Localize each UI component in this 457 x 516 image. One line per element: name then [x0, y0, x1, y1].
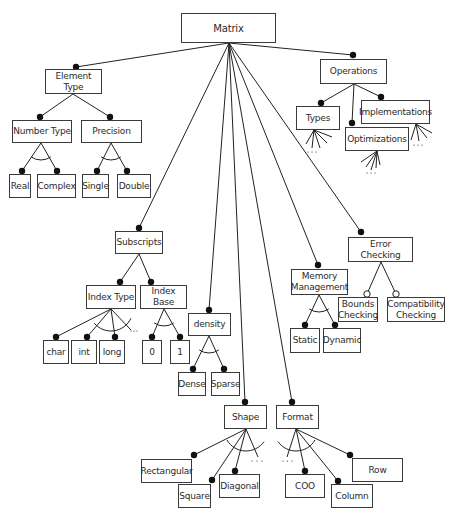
- connector-line: [229, 43, 353, 55]
- node-long: long: [99, 340, 125, 364]
- truncated-branch-line: [411, 124, 416, 140]
- node-implementations: Implementations: [361, 100, 430, 124]
- connector-line: [296, 429, 350, 455]
- node-zero: 0: [142, 340, 162, 364]
- node-shape: Shape: [224, 405, 267, 429]
- ellipsis-dot: [374, 172, 375, 173]
- connector-line: [152, 309, 164, 337]
- node-square: Square: [178, 484, 211, 508]
- node-element-type: Element Type: [45, 69, 102, 94]
- node-real: Real: [9, 174, 31, 198]
- node-char: char: [43, 340, 69, 364]
- ellipsis-dot: [282, 460, 283, 461]
- truncated-branch-line: [377, 151, 380, 165]
- connector-line: [164, 309, 180, 337]
- ellipsis-dot: [413, 144, 414, 145]
- node-density: density: [188, 313, 231, 336]
- connector-line: [120, 254, 139, 282]
- mandatory-dot-icon: [315, 262, 321, 268]
- connector-line: [56, 309, 111, 337]
- connector-line: [367, 262, 381, 294]
- mandatory-dot-icon: [358, 229, 364, 235]
- node-one: 1: [170, 340, 190, 364]
- connector-line: [139, 43, 229, 228]
- node-bounds-checking: Bounds Checking: [338, 297, 378, 322]
- ellipsis-dot: [136, 330, 137, 331]
- node-index-base: Index Base: [140, 285, 187, 309]
- ellipsis-dot: [251, 460, 252, 461]
- ellipsis-dot: [370, 172, 371, 173]
- node-number-type: Number Type: [12, 120, 72, 143]
- node-matrix: Matrix: [181, 13, 276, 43]
- connector-line: [321, 84, 354, 103]
- ellipsis-dot: [315, 151, 316, 152]
- mandatory-dot-icon: [209, 477, 215, 483]
- connector-line: [87, 309, 111, 337]
- truncated-branch-line: [314, 130, 332, 137]
- node-memory-management: Memory Management: [291, 269, 348, 295]
- node-int: int: [71, 340, 97, 364]
- connector-line: [381, 262, 396, 294]
- ellipsis-dot: [261, 460, 262, 461]
- node-format: Format: [276, 405, 319, 429]
- connector-line: [229, 43, 245, 402]
- node-coo: COO: [285, 474, 325, 498]
- node-column: Column: [331, 484, 373, 508]
- truncated-branch-line: [366, 151, 377, 167]
- ellipsis-dot: [417, 144, 418, 145]
- connector-line: [246, 429, 258, 457]
- mandatory-dot-icon: [191, 452, 197, 458]
- ellipsis-dot: [311, 151, 312, 152]
- ellipsis-dot: [133, 330, 134, 331]
- node-precision: Precision: [81, 120, 142, 143]
- node-single: Single: [82, 174, 109, 198]
- connector-line: [41, 143, 57, 171]
- node-operations: Operations: [320, 59, 387, 84]
- connector-line: [354, 84, 381, 97]
- node-sparse: Sparse: [211, 372, 240, 396]
- ellipsis-dot: [366, 172, 367, 173]
- connector-line: [212, 429, 246, 480]
- connector-line: [352, 84, 354, 123]
- connector-line: [111, 143, 127, 171]
- connector-line: [97, 143, 111, 171]
- connector-line: [229, 43, 292, 402]
- node-row: Row: [352, 458, 403, 482]
- connector-line: [76, 43, 229, 67]
- connector-line: [209, 43, 229, 310]
- node-index-type: Index Type: [86, 285, 136, 309]
- node-compatibility-checking: Compatibility Checking: [387, 297, 445, 322]
- node-subscripts: Subscripts: [115, 231, 163, 254]
- node-double: Double: [117, 174, 151, 198]
- connector-line: [139, 254, 151, 282]
- ellipsis-dot: [130, 330, 131, 331]
- node-types: Types: [296, 106, 340, 130]
- connector-line: [287, 429, 296, 457]
- node-rectangular: Rectangular: [141, 459, 192, 483]
- truncated-branch-line: [416, 124, 432, 133]
- ellipsis-dot: [307, 151, 308, 152]
- node-diagonal: Diagonal: [219, 474, 260, 498]
- ellipsis-dot: [421, 144, 422, 145]
- connector-line: [229, 43, 318, 265]
- connector-line: [73, 94, 110, 117]
- node-static: Static: [290, 328, 320, 353]
- ellipsis-dot: [256, 460, 257, 461]
- feature-diagram: MatrixElement TypeNumber TypePrecisionRe…: [0, 0, 457, 516]
- connector-line: [40, 94, 73, 117]
- alternative-arc: [31, 157, 51, 160]
- connector-line: [194, 429, 246, 455]
- node-dense: Dense: [178, 372, 206, 396]
- ellipsis-dot: [287, 460, 288, 461]
- mandatory-dot-icon: [350, 52, 356, 58]
- node-error-checking: Error Checking: [348, 237, 413, 262]
- node-optimizations: Optimizations: [345, 127, 409, 151]
- truncated-branch-line: [361, 151, 377, 162]
- mandatory-dot-icon: [349, 120, 355, 126]
- node-dynamic: Dynamic: [323, 328, 361, 353]
- node-complex: Complex: [37, 174, 76, 198]
- ellipsis-dot: [291, 460, 292, 461]
